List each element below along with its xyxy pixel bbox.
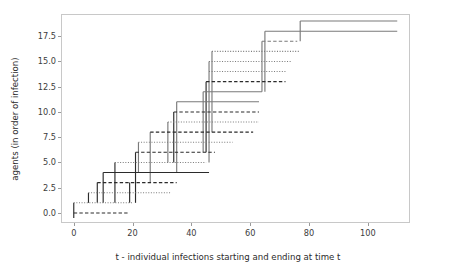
y-tick-label: 5.0	[22, 157, 56, 167]
y-tick-label: 2.5	[22, 183, 56, 193]
x-tick-label: 60	[245, 228, 255, 238]
x-tick-label: 20	[127, 228, 137, 238]
chart-data-layer	[62, 15, 409, 222]
x-tick-mark	[309, 223, 310, 226]
y-tick-label: 15.0	[22, 56, 56, 66]
x-tick-mark	[250, 223, 251, 226]
y-tick-label: 12.5	[22, 82, 56, 92]
x-tick-mark	[74, 223, 75, 226]
x-tick-label: 100	[360, 228, 376, 238]
plot-area	[61, 14, 410, 223]
x-tick-mark	[368, 223, 369, 226]
x-tick-label: 80	[304, 228, 314, 238]
x-tick-label: 40	[186, 228, 196, 238]
figure-canvas: agents (in order of infection) 0.02.55.0…	[0, 0, 456, 274]
y-tick-label: 17.5	[22, 31, 56, 41]
x-tick-mark	[191, 223, 192, 226]
y-tick-label: 10.0	[22, 107, 56, 117]
x-tick-label: 0	[71, 228, 76, 238]
y-tick-label: 0.0	[22, 208, 56, 218]
y-axis-label: agents (in order of infection)	[10, 57, 20, 180]
x-tick-mark	[133, 223, 134, 226]
y-tick-label: 7.5	[22, 132, 56, 142]
x-axis-label: t - individual infections starting and e…	[0, 252, 456, 262]
